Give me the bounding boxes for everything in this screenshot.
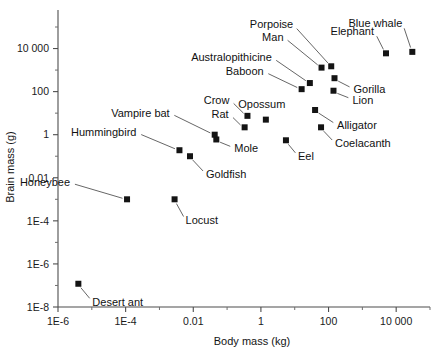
data-marker: [332, 75, 338, 81]
annotation-leader-line: [268, 74, 297, 88]
y-tick-label: 1: [43, 128, 49, 140]
x-tick-label: 1E-6: [47, 315, 69, 327]
y-tick-label: 1E-8: [27, 301, 49, 313]
data-point-label: Eel: [298, 150, 314, 162]
data-point-label: Mole: [234, 142, 258, 154]
x-tick-label: 0.01: [183, 315, 204, 327]
annotation-leader-line: [141, 135, 175, 149]
y-tick-label: 1E-6: [27, 258, 49, 270]
annotation-leader-line: [276, 60, 306, 80]
y-axis-title: Brain mass (g): [4, 131, 16, 203]
annotation-leader-line: [324, 131, 332, 140]
y-tick-label: 1E-4: [27, 215, 49, 227]
data-marker: [124, 196, 130, 202]
annotation-leader-line: [233, 118, 241, 125]
data-point-label: Locust: [186, 214, 218, 226]
data-marker: [176, 147, 182, 153]
y-tick-label: 100: [31, 85, 49, 97]
data-point-label: Opossum: [238, 98, 285, 110]
data-marker: [328, 63, 334, 69]
annotation-leader-line: [377, 36, 384, 49]
data-marker: [172, 196, 178, 202]
data-marker: [307, 80, 313, 86]
annotation-leader-line: [174, 115, 210, 133]
data-point-label: Vampire bat: [111, 107, 170, 119]
data-point-label: Baboon: [226, 65, 264, 77]
data-point-label: Honeybee: [20, 176, 70, 188]
scatter-plot-figure: 1E-81E-61E-40.01110010 0001E-61E-40.0111…: [0, 0, 437, 351]
data-marker: [242, 124, 248, 130]
data-marker: [383, 50, 389, 56]
annotation-leader-line: [81, 288, 90, 299]
data-point-label: Goldfish: [206, 168, 246, 180]
data-marker: [312, 107, 318, 113]
data-point-labels-group: Desert antHoneybeeLocustHummingbirdGoldf…: [20, 17, 402, 308]
data-marker: [283, 137, 289, 143]
data-point-label: Rat: [212, 108, 229, 120]
annotation-leader-line: [288, 144, 295, 152]
annotation-leader-line: [297, 29, 328, 63]
data-marker: [75, 281, 81, 287]
data-point-label: Australopithicine: [191, 51, 272, 63]
annotation-leader-line: [220, 142, 230, 146]
y-tick-label: 10 000: [17, 42, 49, 54]
data-point-label: Hummingbird: [71, 126, 136, 138]
data-marker: [318, 124, 324, 130]
data-point-label: Desert ant: [92, 296, 143, 308]
data-marker: [319, 65, 325, 71]
data-marker: [187, 153, 193, 159]
annotation-leader-line: [75, 184, 123, 198]
annotation-leader-line: [288, 40, 318, 65]
data-point-label: Crow: [204, 94, 230, 106]
data-marker: [263, 117, 269, 123]
annotation-leader-line: [338, 81, 349, 87]
data-marker: [244, 113, 250, 119]
x-tick-label: 10 000: [380, 315, 412, 327]
annotation-leader-line: [176, 204, 183, 217]
data-marker: [330, 88, 336, 94]
data-point-label: Lion: [352, 94, 373, 106]
data-marker: [299, 86, 305, 92]
data-marker: [212, 132, 218, 138]
data-marker: [409, 49, 415, 55]
data-point-label: Coelacanth: [335, 137, 391, 149]
data-point-label: Man: [262, 31, 283, 43]
data-point-label: Blue whale: [348, 17, 402, 29]
annotation-leader-line: [319, 113, 334, 122]
x-tick-label: 1: [258, 315, 264, 327]
x-tick-label: 1E-4: [115, 315, 137, 327]
x-axis-title: Body mass (kg): [214, 335, 290, 347]
annotation-leader-line: [404, 28, 410, 47]
x-tick-label: 100: [320, 315, 338, 327]
data-point-label: Alligator: [337, 119, 377, 131]
data-point-label: Porpoise: [250, 18, 293, 30]
annotation-leader-line: [193, 160, 203, 171]
annotation-leader-line: [337, 93, 348, 97]
plot-canvas: 1E-81E-61E-40.01110010 0001E-61E-40.0111…: [0, 0, 437, 351]
